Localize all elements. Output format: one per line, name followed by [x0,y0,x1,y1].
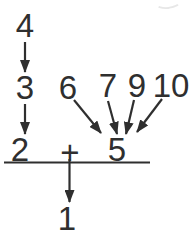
number-6: 6 [59,69,77,106]
number-4: 4 [16,7,34,44]
number-7: 7 [99,67,117,104]
number-2: 2 [11,131,29,168]
arrow-6-to-5 [74,100,101,133]
number-1: 1 [58,200,76,234]
number-5: 5 [108,131,126,168]
addition-diagram: 43267910+51 [0,0,189,233]
arrow-10-to-5 [137,99,162,132]
arrow-7-to-5 [108,101,117,134]
plus-sign: + [60,134,79,171]
diagram-page: 43267910+51 [0,0,189,233]
number-3: 3 [16,69,34,106]
number-9: 9 [128,67,146,104]
arrow-9-to-5 [126,100,134,134]
number-10: 10 [153,67,189,104]
